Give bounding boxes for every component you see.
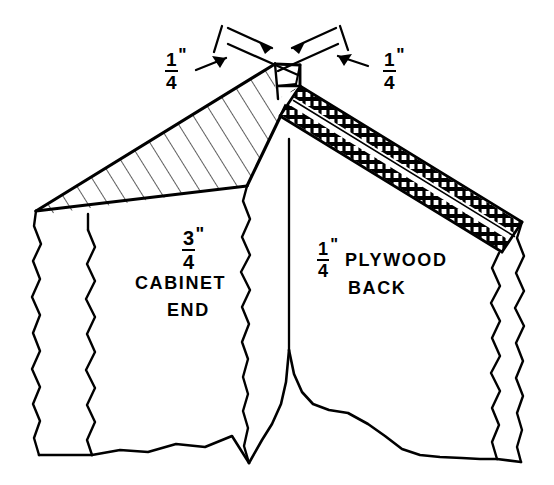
- part-label-cabinet-end-line1: CABINET: [135, 273, 226, 294]
- dimension-leaders: [196, 26, 368, 75]
- plywood-back-section-face: [278, 86, 522, 252]
- inch-mark: ": [396, 47, 404, 64]
- part-label-plywood-line1: PLYWOOD: [345, 250, 448, 271]
- fraction-denominator: 4: [182, 251, 195, 272]
- dimension-label-plywood-back: 1" 4: [317, 240, 329, 280]
- rabbet-joint-drawing: [0, 0, 554, 485]
- technical-drawing-canvas: 1" 4 1" 4 3" 4 CABINET END 1" 4 PLYWOOD …: [0, 0, 554, 485]
- fraction-denominator: 4: [383, 72, 396, 92]
- plywood-back-front-face: [491, 222, 524, 462]
- fraction-denominator: 4: [317, 261, 329, 280]
- fraction-numerator: 1: [383, 50, 396, 72]
- cabinet-end-front-face: [32, 186, 250, 463]
- bottom-break-line: [92, 186, 497, 463]
- fraction-numerator: 3: [182, 228, 195, 251]
- part-label-cabinet-end-line2: END: [167, 300, 210, 321]
- inch-mark: ": [195, 225, 204, 243]
- dimension-label-top-right: 1" 4: [383, 50, 396, 92]
- fraction-denominator: 4: [165, 72, 178, 92]
- dimension-label-cabinet-end: 3" 4: [182, 228, 195, 272]
- dimension-label-top-left: 1" 4: [165, 50, 178, 92]
- inch-mark: ": [178, 47, 186, 64]
- fraction-numerator: 1: [317, 240, 329, 261]
- inch-mark: ": [330, 237, 338, 254]
- part-label-plywood-line2: BACK: [348, 278, 406, 299]
- fraction-numerator: 1: [165, 50, 178, 72]
